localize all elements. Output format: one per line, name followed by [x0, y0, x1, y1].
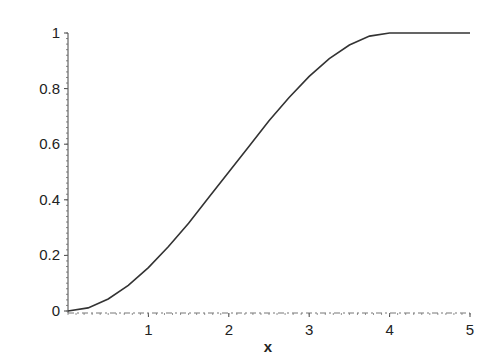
x-tick-label: 3: [305, 321, 313, 338]
y-tick-label: 0: [52, 302, 60, 319]
chart: 00.20.40.60.8112345 x: [0, 0, 502, 363]
tick-labels: 00.20.40.60.8112345: [39, 24, 474, 338]
x-tick-label: 5: [466, 321, 474, 338]
y-tick-label: 0.4: [39, 191, 60, 208]
data-line: [68, 33, 470, 311]
x-tick-label: 2: [225, 321, 233, 338]
y-tick-label: 0.8: [39, 80, 60, 97]
y-tick-label: 1: [52, 24, 60, 41]
y-tick-label: 0.2: [39, 246, 60, 263]
x-axis-label: x: [264, 338, 273, 355]
axes: [68, 33, 470, 313]
ticks: [64, 33, 470, 317]
y-tick-label: 0.6: [39, 135, 60, 152]
x-tick-label: 1: [144, 321, 152, 338]
x-tick-label: 4: [385, 321, 393, 338]
